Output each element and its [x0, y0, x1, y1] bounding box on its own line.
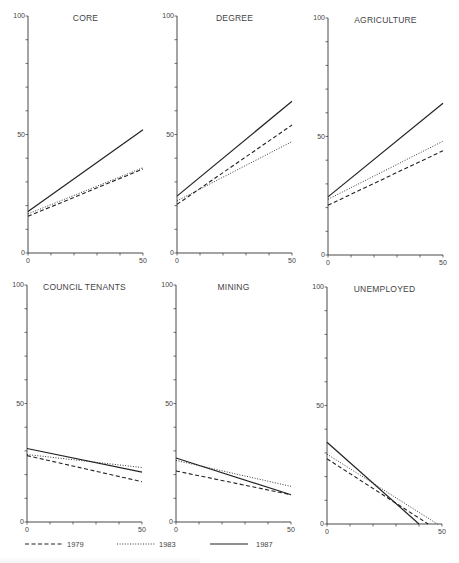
series-line-1987 [327, 442, 419, 524]
legend-label: 1987 [256, 540, 273, 549]
y-tick-label: 100 [162, 12, 174, 19]
series-line-1987 [176, 458, 291, 495]
x-tick-label: 0 [175, 257, 179, 264]
panel-degree: 050100050DEGREE [162, 12, 296, 263]
cropped-caption [0, 557, 200, 563]
chart-panels: 050100050CORE050100050DEGREE050100050AGR… [12, 12, 447, 534]
y-tick-label: 100 [13, 12, 25, 19]
legend-item-1979: 1979 [25, 540, 84, 549]
y-tick-label: 0 [170, 249, 174, 256]
y-tick-label: 50 [16, 400, 24, 407]
small-multiples-figure: 050100050CORE050100050DEGREE050100050AGR… [0, 0, 459, 563]
series-line-1983 [327, 454, 437, 524]
x-tick-label: 0 [25, 526, 29, 533]
series-line-1979 [328, 151, 443, 206]
y-tick-label: 50 [17, 131, 25, 138]
x-tick-label: 0 [325, 528, 329, 535]
x-tick-label: 50 [139, 257, 147, 264]
panel-title: AGRICULTURE [354, 15, 417, 25]
x-tick-label: 0 [326, 259, 330, 266]
y-tick-label: 0 [169, 518, 173, 525]
y-tick-label: 0 [20, 518, 24, 525]
y-tick-label: 0 [320, 520, 324, 527]
panel-title: UNEMPLOYED [354, 284, 416, 294]
series-line-1987 [28, 130, 143, 212]
y-tick-label: 50 [165, 400, 173, 407]
series-line-1983 [28, 168, 143, 214]
y-tick-label: 100 [161, 281, 173, 288]
panel-title: CORE [73, 13, 98, 23]
legend-item-1983: 1983 [117, 540, 176, 549]
series-line-1979 [28, 169, 143, 216]
panel-title: DEGREE [216, 13, 253, 23]
series-line-1983 [27, 455, 142, 468]
panel-unemployed: 050100050UNEMPLOYED [312, 283, 446, 534]
series-line-1987 [177, 101, 292, 196]
x-tick-label: 50 [439, 259, 447, 266]
y-tick-label: 50 [166, 131, 174, 138]
y-tick-label: 100 [12, 281, 24, 288]
x-tick-label: 50 [438, 528, 446, 535]
legend-label: 1979 [67, 540, 84, 549]
x-tick-label: 0 [174, 526, 178, 533]
y-tick-label: 0 [321, 251, 325, 258]
legend-item-1987: 1987 [210, 540, 273, 549]
panel-title: MINING [218, 282, 250, 292]
panel-mining: 050100050MINING [161, 281, 295, 532]
x-tick-label: 50 [138, 526, 146, 533]
x-tick-label: 50 [287, 526, 295, 533]
y-tick-label: 100 [312, 283, 324, 290]
y-tick-label: 100 [313, 14, 325, 21]
y-tick-label: 50 [317, 133, 325, 140]
panel-agriculture: 050100050AGRICULTURE [313, 14, 447, 265]
panel-council-tenants: 050100050COUNCIL TENANTS [12, 281, 146, 532]
x-tick-label: 0 [26, 257, 30, 264]
y-tick-label: 0 [21, 249, 25, 256]
legend-label: 1983 [159, 540, 176, 549]
panel-core: 050100050CORE [13, 12, 147, 263]
series-line-1979 [176, 471, 291, 495]
legend: 197919831987 [25, 540, 273, 549]
series-line-1979 [327, 459, 428, 524]
y-tick-label: 50 [316, 402, 324, 409]
x-tick-label: 50 [288, 257, 296, 264]
panel-title: COUNCIL TENANTS [43, 282, 126, 292]
